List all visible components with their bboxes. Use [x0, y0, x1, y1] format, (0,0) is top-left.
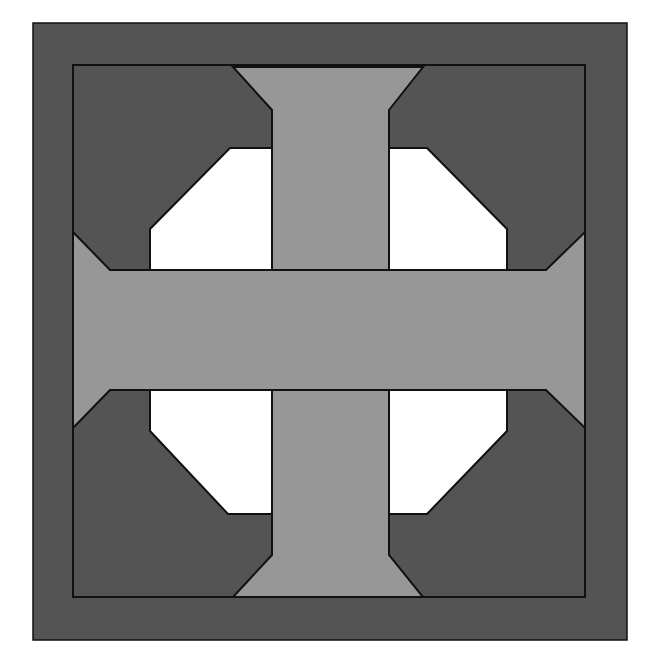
quilt-block-figure [0, 0, 653, 665]
